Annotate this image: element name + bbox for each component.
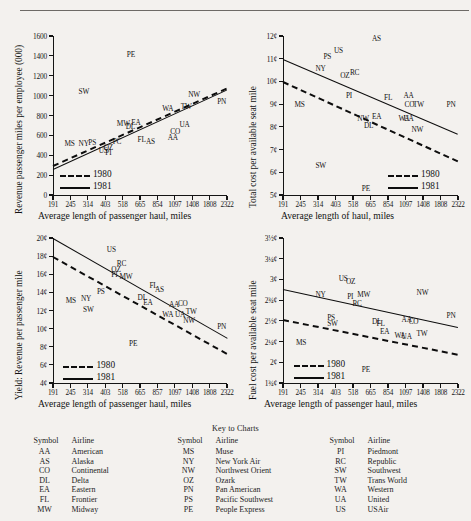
chart1-data-point-PE: PE — [362, 184, 370, 193]
chart1-y-tick — [279, 104, 283, 105]
chart0-data-point-PI: PI — [105, 148, 111, 157]
key-airline: Southwest — [368, 466, 456, 476]
chart3-y-tick-label: 2¢ — [237, 358, 277, 367]
chart1-x-tick — [335, 196, 336, 200]
chart2-y-axis — [53, 238, 54, 383]
chart3-legend-swatch-1981 — [294, 377, 324, 379]
chart0-x-tick — [226, 196, 227, 200]
key-symbol: PE — [174, 505, 216, 515]
key-airline: Midway — [72, 505, 160, 515]
chart1-x-tick-label: 2322 — [444, 201, 471, 209]
chart3-legend: 19801981 — [294, 360, 374, 384]
chart1-data-point-TW: TW — [413, 100, 424, 109]
key-airline: Northwest Orient — [216, 466, 312, 476]
chart1-y-tick-label: 8¢ — [237, 123, 277, 132]
key-symbol: PN — [174, 485, 216, 495]
chart-yield-revenue-per-passenger-mile: Yield: Revenue per passenger mile 4¢6¢8¢… — [0, 228, 236, 418]
chart3-data-point-TW: TW — [417, 329, 428, 338]
chart3-x-tick — [335, 384, 336, 388]
chart1-data-point-SW: SW — [315, 161, 326, 170]
chart0-y-tick-label: 1400 — [7, 52, 47, 61]
chart3-data-point-EA: EA — [380, 327, 389, 336]
chart0-y-tick — [49, 135, 53, 136]
chart0-y-tick-label: 200 — [7, 171, 47, 180]
chart1-x-axis-title: Average length of haul, miles — [281, 210, 394, 221]
chart2-x-tick — [70, 384, 71, 388]
chart0-y-tick-label: 0 — [7, 191, 47, 200]
key-airline: Continental — [72, 466, 160, 476]
chart2-x-tick — [139, 384, 140, 388]
chart0-data-point-MS: MS — [64, 139, 74, 148]
chart0-data-point-CO: CO — [170, 127, 180, 136]
chart0-x-tick — [157, 196, 158, 200]
key-symbol: WA — [326, 485, 368, 495]
key-airline: Eastern — [72, 485, 160, 495]
chart0-legend-swatch-1980 — [60, 175, 90, 177]
chart-total-cost-per-available-seat-mile: Total cost per available seat mile 5¢6¢7… — [236, 18, 471, 223]
chart0-x-tick — [122, 196, 123, 200]
chart3-trendline-1980 — [283, 319, 458, 356]
chart1-legend: 19801981 — [388, 170, 468, 194]
key-airline: New York Air — [216, 457, 312, 467]
chart3-data-point-MS: MS — [296, 338, 306, 347]
chart2-y-tick-label: 20¢ — [7, 234, 47, 243]
chart1-x-tick — [317, 196, 318, 200]
chart2-data-point-SW: SW — [83, 305, 94, 314]
key-head-symbol-2: Symbol — [174, 436, 216, 447]
chart3-y-tick — [279, 237, 283, 238]
chart2-x-axis-title: Average length of passenger haul, miles — [38, 398, 191, 409]
key-airline: Pacific Southwest — [216, 495, 312, 505]
chart2-data-point-NY: NY — [81, 294, 91, 303]
chart1-y-tick-label: 11¢ — [237, 55, 277, 64]
chart2-data-point-EA: EA — [143, 298, 152, 307]
key-airline: Delta — [72, 476, 160, 486]
key-symbol: MW — [30, 505, 72, 515]
chart2-x-tick — [192, 384, 193, 388]
chart3-legend-label-1980: 1980 — [327, 360, 346, 369]
chart0-x-tick — [209, 196, 210, 200]
key-airline: United — [368, 495, 456, 505]
chart3-trendline-1981 — [283, 289, 458, 328]
chart3-data-point-RC: RC — [352, 299, 361, 308]
key-head-airline-1: Airline — [72, 436, 160, 447]
chart0-legend-swatch-1981 — [60, 187, 90, 189]
chart1-data-point-NY: NY — [315, 64, 325, 73]
chart2-y-tick-label: 12¢ — [7, 307, 47, 316]
key-head-symbol-1: Symbol — [30, 436, 72, 447]
chart-revenue-passenger-miles-per-employee: Revenue passenger miles per employee (00… — [0, 18, 236, 223]
chart3-y-tick-label: 3½¢ — [237, 234, 277, 243]
key-symbol: SW — [326, 466, 368, 476]
chart3-y-tick-label: 2¼¢ — [237, 338, 277, 347]
chart0-y-axis-title: Revenue passenger miles per employee (00… — [14, 45, 24, 214]
chart1-data-point-PS: PS — [324, 52, 332, 61]
chart3-data-point-MW: MW — [357, 290, 370, 299]
chart0-y-tick — [49, 155, 53, 156]
chart0-x-tick — [139, 196, 140, 200]
chart0-y-tick-label: 1600 — [7, 32, 47, 41]
chart2-x-tick — [122, 384, 123, 388]
chart2-y-tick — [49, 328, 53, 329]
chart2-data-point-WA: WA — [162, 310, 173, 319]
chart2-data-point-PN: PN — [217, 322, 226, 331]
chart2-y-tick — [49, 292, 53, 293]
chart3-y-tick — [279, 300, 283, 301]
chart2-y-tick-label: 6¢ — [7, 361, 47, 370]
chart3-legend-swatch-1980 — [294, 365, 324, 367]
chart2-data-point-US: US — [107, 245, 116, 254]
chart3-y-tick-label: 3¢ — [237, 275, 277, 284]
chart3-data-point-OZ: OZ — [346, 277, 355, 286]
chart2-legend-swatch-1981 — [63, 378, 93, 380]
top-rule — [20, 10, 469, 11]
chart2-x-tick — [157, 384, 158, 388]
chart1-data-point-EA: EA — [372, 112, 381, 121]
chart0-data-point-PC: PC — [113, 137, 122, 146]
chart0-data-point-SW: SW — [79, 87, 90, 96]
chart1-data-point-MS: MS — [295, 100, 305, 109]
chart3-x-tick — [457, 384, 458, 388]
chart1-data-point-US: US — [334, 46, 343, 55]
chart0-x-axis-title: Average length of passenger haul, miles — [38, 210, 191, 221]
chart1-y-tick-label: 12¢ — [237, 32, 277, 41]
key-symbol: FL — [30, 495, 72, 505]
chart3-y-tick — [279, 258, 283, 259]
chart3-plot-area: 1¾¢2¢2¼¢2½¢2¾¢3¢3¼¢3½¢191245314403518665… — [283, 238, 458, 383]
